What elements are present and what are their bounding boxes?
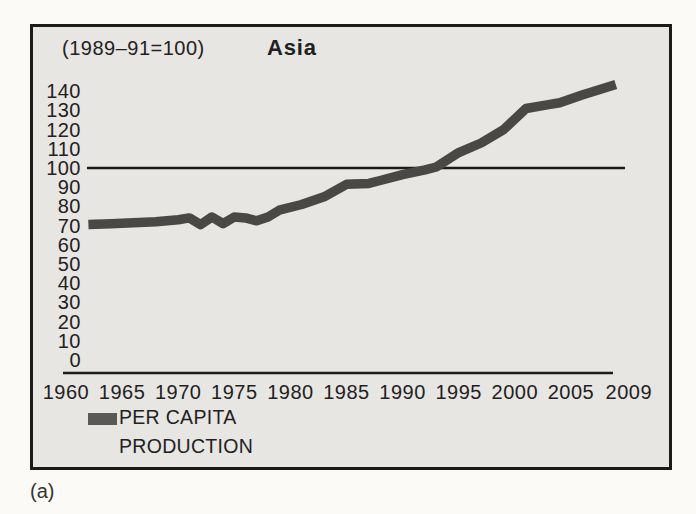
x-tick-label: 1990 bbox=[379, 381, 426, 403]
figure-label: (a) bbox=[30, 480, 54, 503]
legend-swatch-icon bbox=[88, 413, 117, 425]
x-tick-label: 1970 bbox=[155, 381, 202, 403]
x-tick-label: 1960 bbox=[43, 381, 90, 403]
legend-label-line1: PER CAPITA bbox=[119, 403, 253, 432]
x-tick-label: 2005 bbox=[548, 381, 595, 403]
x-tick-label: 1980 bbox=[267, 381, 314, 403]
x-tick-label: 1985 bbox=[323, 381, 370, 403]
x-tick-label: 1965 bbox=[99, 381, 146, 403]
x-tick-label: 2009 bbox=[606, 381, 653, 403]
legend-label-line2: PRODUCTION bbox=[119, 432, 253, 461]
x-tick-label: 1995 bbox=[435, 381, 482, 403]
asia-production-line-chart: 1401301201101009080706050403020100196019… bbox=[33, 27, 669, 467]
per-capita-production-line bbox=[88, 85, 615, 225]
chart-panel: (1989–91=100) Asia 140130120110100908070… bbox=[30, 24, 672, 470]
x-tick-label: 1975 bbox=[211, 381, 257, 403]
scanned-book-page: (1989–91=100) Asia 140130120110100908070… bbox=[0, 0, 696, 514]
legend-label: PER CAPITA PRODUCTION bbox=[119, 403, 253, 461]
y-tick-label: 0 bbox=[69, 349, 81, 371]
legend: PER CAPITA PRODUCTION bbox=[88, 403, 253, 461]
x-tick-label: 2000 bbox=[492, 381, 539, 403]
